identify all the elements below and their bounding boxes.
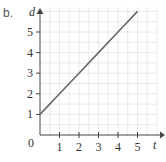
x-tick-label: 2: [76, 140, 82, 154]
grid: [40, 7, 157, 135]
part-label: b.: [3, 6, 13, 20]
y-tick-label: 5: [27, 25, 33, 39]
origin-label: 0: [28, 136, 34, 150]
x-tick-label: 4: [115, 140, 121, 154]
y-axis-label: d: [29, 5, 36, 19]
y-tick-label: 1: [27, 107, 33, 121]
x-tick-label: 1: [57, 140, 63, 154]
line-chart: 1234512345 b. d t 0: [0, 0, 166, 162]
x-tick-label: 5: [135, 140, 141, 154]
x-axis-arrow-icon: [160, 132, 165, 139]
y-tick-label: 4: [27, 46, 33, 60]
y-tick-label: 2: [27, 87, 33, 101]
y-tick-label: 3: [27, 66, 33, 80]
x-tick-label: 3: [96, 140, 102, 154]
x-axis-label: t: [153, 138, 157, 152]
